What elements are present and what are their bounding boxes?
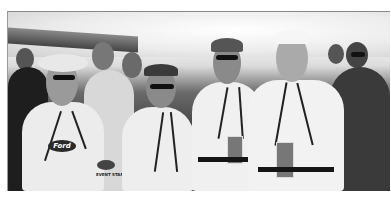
group-photo: Ford EVENT STAFF <box>7 11 390 191</box>
ford-logo: Ford <box>48 140 76 152</box>
credential-badge-2 <box>276 142 294 178</box>
sleeve-patch-logo <box>97 160 115 170</box>
